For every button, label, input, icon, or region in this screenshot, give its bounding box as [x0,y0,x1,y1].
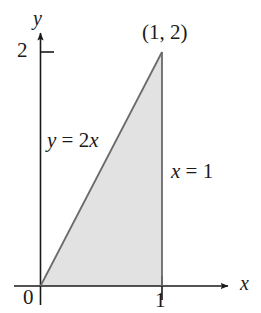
vertex-point-label: (1, 2) [142,22,188,43]
x-axis-label: x [240,273,249,293]
line-equation-variable-x: x [89,128,98,152]
vertical-line-equation-label: x = 1 [171,161,213,182]
figure-canvas: y x 2 0 1 (1, 2) y = 2x x = 1 [0,0,261,313]
y-axis-label: y [33,8,42,28]
origin-tick-label-0: 0 [23,287,34,308]
line-equation-variable-y: y [47,128,56,152]
line-equation-operator: = 2 [56,128,89,152]
x-tick-label-1: 1 [155,290,166,311]
vertical-equation-operator: = 1 [180,159,213,183]
plot-area [0,0,261,313]
line-equation-label: y = 2x [47,130,99,151]
y-tick-label-2: 2 [17,40,28,61]
vertical-equation-variable-x: x [171,159,180,183]
